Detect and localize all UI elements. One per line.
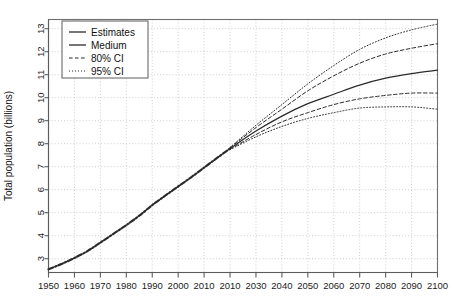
legend: EstimatesMedium80% CI95% CI xyxy=(62,21,148,78)
y-axis-tick-label: 8 xyxy=(35,141,46,146)
y-axis: 345678910111213 xyxy=(35,20,49,273)
y-axis-tick-label: 10 xyxy=(35,92,46,103)
legend-label: 80% CI xyxy=(91,53,124,64)
x-axis-tick-label: 2040 xyxy=(271,280,292,291)
legend-label: Medium xyxy=(91,40,127,51)
series-line xyxy=(230,44,437,148)
population-projection-chart: 345678910111213 195019601970198019902000… xyxy=(0,0,452,304)
x-axis-tick-label: 2010 xyxy=(219,280,240,291)
x-axis-tick-label: 2070 xyxy=(349,280,370,291)
y-axis-tick-label: 3 xyxy=(35,256,46,261)
y-axis-tick-label: 9 xyxy=(35,118,46,123)
x-axis-tick-label: 2030 xyxy=(245,280,266,291)
x-axis-tick-label: 2060 xyxy=(323,280,344,291)
x-axis-tick-label: 2090 xyxy=(401,280,422,291)
x-axis-tick-label: 1950 xyxy=(38,280,59,291)
x-axis-tick-label: 1980 xyxy=(116,280,137,291)
x-axis-tick-label: 2100 xyxy=(427,280,448,291)
y-axis-tick-label: 7 xyxy=(35,164,46,169)
x-axis-tick-label: 2010 xyxy=(194,280,215,291)
legend-label: Estimates xyxy=(91,27,135,38)
x-axis-tick-label: 1990 xyxy=(142,280,163,291)
chart-canvas: 345678910111213 195019601970198019902000… xyxy=(0,0,452,304)
x-axis-tick-label: 1960 xyxy=(64,280,85,291)
y-axis-tick-label: 11 xyxy=(35,70,46,80)
legend-label: 95% CI xyxy=(91,66,124,77)
y-axis-tick-label: 12 xyxy=(35,46,46,57)
y-axis-tick-label: 4 xyxy=(35,233,46,238)
x-axis-tick-label: 2050 xyxy=(297,280,318,291)
y-axis-tick-label: 5 xyxy=(35,210,46,215)
y-axis-title: Total population (billions) xyxy=(3,91,14,201)
x-axis-tick-label: 1970 xyxy=(90,280,111,291)
x-axis-tick-label: 2080 xyxy=(375,280,396,291)
y-axis-tick-label: 13 xyxy=(35,23,46,34)
y-axis-tick-label: 6 xyxy=(35,187,46,192)
x-axis: 1950196019701980199020002010201020302040… xyxy=(38,273,448,291)
y-axis-title-group: Total population (billions) xyxy=(3,91,14,201)
x-axis-tick-label: 2000 xyxy=(168,280,189,291)
